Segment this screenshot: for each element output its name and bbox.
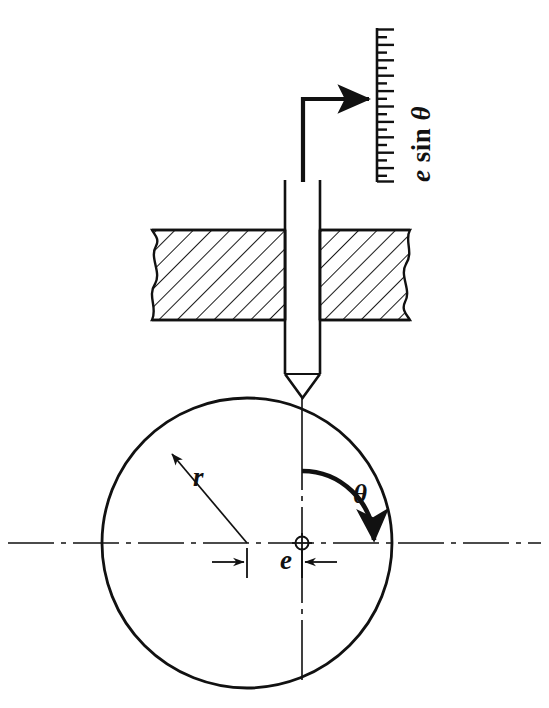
guide-block-left bbox=[152, 230, 285, 320]
radius-leader-line bbox=[172, 454, 247, 543]
eccentricity-dimension bbox=[212, 548, 337, 578]
follower-rod bbox=[285, 180, 320, 398]
rod-point-tip bbox=[285, 374, 320, 398]
scale-ticks bbox=[377, 30, 394, 182]
rod-sides-overlay bbox=[285, 230, 320, 320]
eccentricity-label: e bbox=[280, 545, 292, 576]
radius-label: r bbox=[193, 462, 204, 493]
measurement-scale bbox=[377, 28, 394, 182]
scale-label-e: e bbox=[406, 170, 436, 182]
scale-label-theta: θ bbox=[406, 106, 436, 121]
cam-diagram-canvas bbox=[0, 0, 549, 708]
angle-label: θ bbox=[353, 479, 367, 510]
rod-sides bbox=[285, 180, 320, 374]
scale-label-sin: sin bbox=[406, 120, 436, 169]
scale-label-e-sin-theta: e sin θ bbox=[406, 52, 436, 182]
pointer-leader bbox=[303, 99, 369, 182]
cam-diagram-figure: e sin θ r e θ bbox=[0, 0, 549, 708]
pointer-arrow bbox=[303, 99, 369, 182]
guide-block-right bbox=[320, 230, 410, 320]
guide-block bbox=[152, 230, 410, 320]
